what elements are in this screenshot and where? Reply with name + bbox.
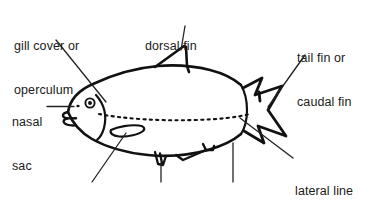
- lateral-line: [99, 114, 250, 120]
- label-anal-fin: anal fin: [220, 185, 261, 215]
- leader-lateral-line: [240, 118, 293, 158]
- label-anal-fin-line1: anal fin: [220, 214, 261, 215]
- label-tail-fin-line2: caudal fin: [297, 95, 352, 110]
- eye-icon: [85, 98, 94, 107]
- caudal-fin: [243, 78, 286, 143]
- pectoral-fin: [111, 125, 145, 136]
- label-pectoral-fin: pectoral fin: [25, 185, 87, 215]
- gill-cover-curve: [96, 95, 105, 140]
- label-lateral-line-line1: lateral line: [295, 184, 353, 199]
- label-lateral-line: lateral line: [295, 155, 353, 215]
- label-dorsal-fin-line1: dorsal fin: [145, 39, 197, 54]
- label-nasal-sac-line1: nasal: [12, 115, 42, 130]
- label-dorsal-fin: dorsal fin: [145, 10, 197, 83]
- caudal-peduncle-detail: [241, 85, 247, 134]
- label-pelvic-fins: pelvic fins: [135, 185, 191, 215]
- label-tail-fin: tail fin or caudal fin: [297, 22, 352, 138]
- label-nasal-sac-line2: sac: [12, 159, 42, 174]
- label-tail-fin-line1: tail fin or: [297, 51, 352, 66]
- label-gill-cover-line1: gill cover or: [14, 39, 79, 54]
- label-pectoral-fin-line1: pectoral fin: [25, 214, 87, 215]
- label-pelvic-fins-line1: pelvic fins: [135, 214, 191, 215]
- fish-anatomy-diagram: gill cover or operculum dorsal fin tail …: [0, 0, 387, 215]
